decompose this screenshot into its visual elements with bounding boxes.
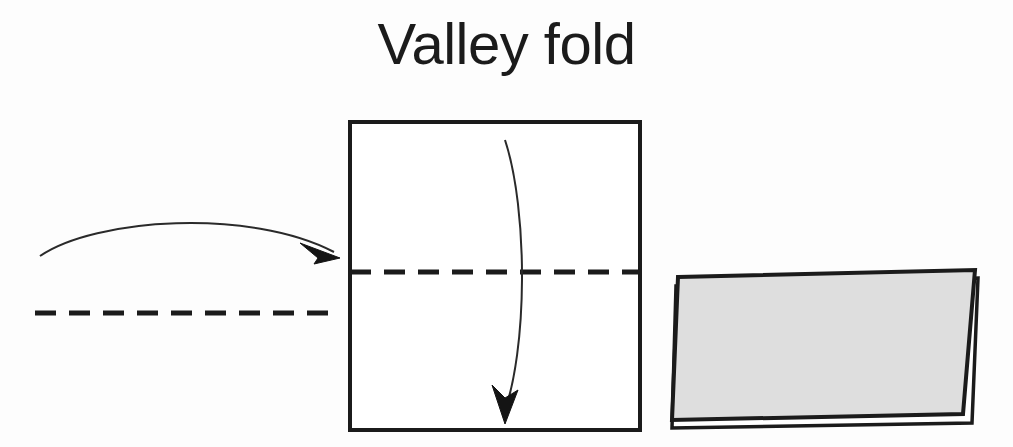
panel-square-sheet [350, 122, 640, 430]
paper-square-outline [350, 122, 640, 430]
fold-arrow-curve-left [40, 223, 334, 256]
origami-diagram-svg [0, 0, 1013, 447]
panel-folded-result [672, 270, 978, 428]
diagram-canvas [0, 0, 1013, 447]
diagram-page: Valley fold [0, 0, 1013, 447]
folded-paper-top-flap [672, 270, 975, 420]
panel-crease-legend [35, 223, 340, 313]
